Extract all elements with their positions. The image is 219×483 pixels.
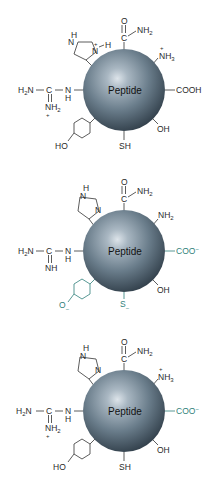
guanidino-charge: + bbox=[46, 112, 50, 118]
imidazole-plus: + bbox=[94, 41, 98, 47]
guanidino-bottom: NH bbox=[45, 263, 57, 273]
imidazole-n-top: N bbox=[80, 191, 86, 201]
panel-neutral-ph: Peptide O C NH2 H N N NH3 + COO− OH SH H… bbox=[0, 322, 219, 483]
peptide-diagram-2: Peptide O C NH2 H N N NH2 COO− OH S− O− … bbox=[0, 161, 219, 322]
imidazole-n-top: N bbox=[68, 37, 74, 47]
phenol: HO bbox=[55, 141, 68, 151]
imidazole-n-top: N bbox=[80, 351, 86, 361]
amine: NH2 bbox=[158, 210, 174, 221]
amide-nh2: NH2 bbox=[137, 25, 153, 36]
guanidino-h2n: H2N bbox=[16, 406, 32, 417]
amine: NH3 bbox=[159, 51, 175, 62]
core-label: Peptide bbox=[108, 246, 142, 257]
amide-c: C bbox=[121, 33, 127, 43]
guanidino-h2n: H2N bbox=[18, 85, 34, 96]
amide-nh2: NH2 bbox=[137, 346, 153, 357]
hydroxyl: OH bbox=[157, 445, 170, 455]
amine-charge: + bbox=[160, 45, 164, 51]
guanidino-c: C bbox=[46, 406, 52, 416]
phenol: HO bbox=[53, 462, 66, 472]
hydroxyl: OH bbox=[157, 124, 170, 134]
imidazole-h-right: H bbox=[105, 40, 111, 50]
thiol: SH bbox=[119, 141, 131, 151]
amide-o: O bbox=[121, 337, 128, 347]
guanidino-h: H bbox=[65, 254, 71, 264]
carboxylate: COO− bbox=[176, 406, 199, 416]
carboxylate: COO− bbox=[176, 246, 199, 256]
panel-low-ph: Peptide O C NH2 H N N + H NH3 + COOH OH … bbox=[0, 0, 219, 161]
amide-c: C bbox=[121, 194, 127, 204]
guanidino-h2n: H2N bbox=[18, 246, 34, 257]
peptide-diagram-1: Peptide O C NH2 H N N + H NH3 + COOH OH … bbox=[0, 0, 219, 161]
guanidino-h: H bbox=[65, 93, 71, 103]
peptide-diagram-3: Peptide O C NH2 H N N NH3 + COO− OH SH H… bbox=[0, 322, 219, 483]
imidazole-n-bottom: N bbox=[95, 365, 101, 375]
amine: NH3 bbox=[158, 372, 174, 383]
thiolate: S− bbox=[120, 299, 130, 311]
amide-nh2: NH2 bbox=[137, 186, 153, 197]
thiol: SH bbox=[119, 462, 131, 472]
core-label: Peptide bbox=[108, 406, 142, 417]
panel-high-ph: Peptide O C NH2 H N N NH2 COO− OH S− O− … bbox=[0, 161, 219, 322]
core-label: Peptide bbox=[108, 85, 142, 96]
amide-o: O bbox=[121, 16, 128, 26]
amide-c: C bbox=[121, 354, 127, 364]
guanidino-charge: + bbox=[46, 433, 50, 439]
amide-o: O bbox=[121, 177, 128, 187]
imidazole-n-bottom: N bbox=[92, 46, 98, 56]
hydroxyl: OH bbox=[157, 285, 170, 295]
imidazole-n-bottom: N bbox=[95, 205, 101, 215]
guanidino-c: C bbox=[46, 85, 52, 95]
guanidino-c: C bbox=[46, 246, 52, 256]
carboxyl: COOH bbox=[176, 85, 202, 95]
guanidino-h: H bbox=[65, 414, 71, 424]
amine-charge: + bbox=[159, 366, 163, 372]
